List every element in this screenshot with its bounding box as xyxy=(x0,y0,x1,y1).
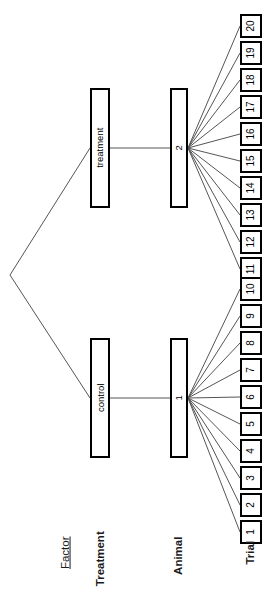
edge-animal2-trial xyxy=(188,148,240,242)
trial-node-label: 9 xyxy=(246,313,256,319)
trial-node[interactable]: 19 xyxy=(240,41,262,65)
trial-node-label: 3 xyxy=(246,475,256,481)
trial-node-label: 7 xyxy=(246,367,256,373)
trial-node[interactable]: 15 xyxy=(240,149,262,173)
animal-node-1[interactable]: 1 xyxy=(170,338,188,458)
trial-node-label: 19 xyxy=(246,47,256,58)
column-label-treatment: Treatment xyxy=(85,528,115,590)
animal-node-label: 2 xyxy=(174,145,184,150)
trial-node-label: 2 xyxy=(246,502,256,508)
diagram-canvas: treatment control 2 1 20 19 18 17 16 15 … xyxy=(0,0,274,593)
edge-animal1-trial xyxy=(188,397,240,398)
trial-node[interactable]: 13 xyxy=(240,203,262,227)
edge-animal2-trial xyxy=(188,53,240,148)
edge-animal1-trial xyxy=(188,343,240,398)
trial-node[interactable]: 16 xyxy=(240,122,262,146)
treatment-node-control[interactable]: control xyxy=(90,338,110,458)
column-label-factor: Factor xyxy=(50,528,80,578)
edge-layer xyxy=(0,0,274,593)
trial-node[interactable]: 9 xyxy=(240,304,262,328)
edge-animal2-trial xyxy=(188,107,240,148)
trial-node[interactable]: 20 xyxy=(240,14,262,38)
column-label-trial: Trial xyxy=(236,528,266,578)
edge-animal2-trial xyxy=(188,26,240,148)
edge-animal2-trial xyxy=(188,148,240,269)
edge-animal1-trial xyxy=(188,398,240,451)
animal-node-label: 1 xyxy=(174,395,184,400)
edge-animal1-trial xyxy=(188,289,240,398)
trial-node[interactable]: 7 xyxy=(240,358,262,382)
animal-node-2[interactable]: 2 xyxy=(170,88,188,208)
trial-node-label: 4 xyxy=(246,448,256,454)
treatment-node-treatment[interactable]: treatment xyxy=(90,88,110,208)
trial-node[interactable]: 4 xyxy=(240,439,262,463)
edge-animal1-trial xyxy=(188,398,240,424)
trial-node[interactable]: 17 xyxy=(240,95,262,119)
trial-node[interactable]: 5 xyxy=(240,412,262,436)
trial-node-label: 13 xyxy=(246,209,256,220)
trial-node[interactable]: 2 xyxy=(240,493,262,517)
trial-node-label: 20 xyxy=(246,20,256,31)
trial-node[interactable]: 3 xyxy=(240,466,262,490)
trial-node[interactable]: 10 xyxy=(240,277,262,301)
trial-node-label: 15 xyxy=(246,155,256,166)
edge-animal1-trial xyxy=(188,370,240,398)
trial-node-label: 5 xyxy=(246,421,256,427)
trial-node-label: 18 xyxy=(246,74,256,85)
edge-animal2-trial xyxy=(188,80,240,148)
trial-node-label: 12 xyxy=(246,236,256,247)
column-label-animal: Animal xyxy=(164,528,194,584)
trial-node-label: 16 xyxy=(246,128,256,139)
trial-node[interactable]: 12 xyxy=(240,230,262,254)
trial-node[interactable]: 8 xyxy=(240,331,262,355)
trial-node-label: 14 xyxy=(246,182,256,193)
treatment-node-label: control xyxy=(95,384,105,413)
trial-node-label: 10 xyxy=(246,283,256,294)
edge-root-to-treatment xyxy=(10,148,90,275)
trial-node[interactable]: 18 xyxy=(240,68,262,92)
edge-animal1-trial xyxy=(188,398,240,532)
trial-node[interactable]: 6 xyxy=(240,385,262,409)
column-label-trial-text: Trial xyxy=(245,541,257,565)
edge-animal1-trial xyxy=(188,398,240,505)
edge-animal1-trial xyxy=(188,316,240,398)
edge-root-to-control xyxy=(10,275,90,398)
trial-node-label: 8 xyxy=(246,340,256,346)
trial-node[interactable]: 14 xyxy=(240,176,262,200)
column-label-treatment-text: Treatment xyxy=(94,532,106,587)
column-label-factor-text: Factor xyxy=(59,537,71,570)
edge-animal2-trial xyxy=(188,134,240,148)
trial-node-label: 6 xyxy=(246,394,256,400)
trial-node-label: 17 xyxy=(246,101,256,112)
treatment-node-label: treatment xyxy=(95,128,105,168)
column-label-animal-text: Animal xyxy=(173,537,185,575)
trial-node-label: 11 xyxy=(246,264,256,274)
